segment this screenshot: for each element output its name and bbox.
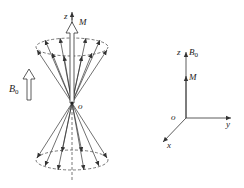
b0-field-hollow-arrow	[23, 69, 35, 100]
z-axis-label: z	[63, 11, 68, 21]
magnetization-hollow-arrow	[66, 22, 78, 103]
y-label: y	[225, 119, 230, 129]
b0-label: B0	[189, 47, 199, 59]
right-axes-figure: z B0 M o y x	[163, 47, 231, 150]
origin-label: o	[171, 112, 176, 122]
origin-label: o	[78, 101, 83, 111]
spin-precession-diagram: z M B0 o z B0 M o y x	[0, 0, 244, 188]
magnetization-label: M	[78, 17, 87, 27]
x-label: x	[166, 140, 171, 150]
z-label: z	[176, 47, 181, 57]
left-cone-figure: z M B0 o	[9, 11, 108, 180]
b0-label: B0	[9, 83, 19, 96]
magnetization-label: M	[188, 72, 197, 82]
origin-point	[71, 102, 74, 105]
